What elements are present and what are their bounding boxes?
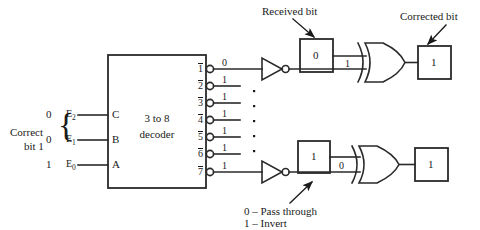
decoder-output-pin-7-text: 7 bbox=[198, 166, 203, 178]
decoder-output-bubble-2 bbox=[206, 82, 213, 89]
inverter-top-triangle bbox=[262, 58, 282, 80]
legend-line-pass-through: 0 – Pass through bbox=[244, 206, 317, 217]
decoder-output-value-2: 1 bbox=[222, 75, 227, 85]
decoder-title-line1: 3 to 8 bbox=[134, 113, 180, 124]
xor-top-body bbox=[365, 43, 405, 82]
legend-arrow bbox=[290, 182, 312, 203]
decoder-output-bubble-1 bbox=[206, 65, 213, 72]
xor-bottom-back-outer bbox=[352, 146, 357, 183]
decoder-output-value-6: 1 bbox=[222, 143, 227, 153]
decoder-output-value-7: 1 bbox=[222, 161, 227, 171]
inverter-bottom-triangle bbox=[262, 161, 282, 183]
decoder-pin-a: A bbox=[112, 159, 120, 170]
decoder-output-bubble-5 bbox=[206, 133, 213, 140]
correct-bit-label-line1: Correct bbox=[10, 127, 43, 138]
decoder-input-value-2: 1 bbox=[46, 159, 52, 170]
decoder-input-signal-e2: E2 bbox=[66, 109, 76, 122]
decoder-output-bubble-7 bbox=[206, 168, 213, 175]
decoder-output-pin-6: 6 bbox=[198, 148, 203, 160]
correct-bit-label-line2: bit 1 bbox=[24, 141, 44, 152]
received-bit-arrow bbox=[293, 19, 314, 37]
decoder-output-pin-2-text: 2 bbox=[198, 80, 203, 92]
decoder-output-value-4: 1 bbox=[222, 109, 227, 119]
decoder-output-pin-4: 4 bbox=[198, 114, 203, 126]
ellipsis-dots-vertical bbox=[253, 90, 255, 152]
diagram-canvas: Correct bit 1 { 0 0 1 E2 E1 E0 C B A 3 t… bbox=[0, 0, 480, 230]
decoder-title-line2: decoder bbox=[128, 129, 186, 140]
decoder-output-bubble-4 bbox=[206, 116, 213, 123]
decoder-output-value-1: 0 bbox=[222, 58, 227, 68]
signal-sub-e1: 1 bbox=[72, 138, 76, 147]
received-bit-value-top: 0 bbox=[313, 50, 319, 61]
decoder-output-bubble-6 bbox=[206, 150, 213, 157]
xor-top-back-outer bbox=[358, 43, 363, 82]
decoder-output-pin-1-text: 1 bbox=[198, 63, 203, 75]
decoder-pin-b: B bbox=[112, 134, 119, 145]
decoder-output-pin-5-text: 5 bbox=[198, 131, 203, 143]
decoder-output-pin-4-text: 4 bbox=[198, 114, 203, 126]
corrected-bit-arrow bbox=[428, 25, 446, 44]
decoder-output-value-3: 1 bbox=[222, 92, 227, 102]
decoder-output-pin-3: 3 bbox=[198, 97, 203, 109]
decoder-pin-c: C bbox=[112, 109, 119, 120]
legend-line-invert: 1 – Invert bbox=[244, 218, 287, 229]
decoder-output-pin-6-text: 6 bbox=[198, 148, 203, 160]
decoder-output-bubble-3 bbox=[206, 99, 213, 106]
corrected-bit-label: Corrected bit bbox=[400, 11, 458, 22]
signal-sub-e2: 2 bbox=[72, 113, 76, 122]
decoder-output-pin-5: 5 bbox=[198, 131, 203, 143]
decoder-output-value-5: 1 bbox=[222, 126, 227, 136]
received-bit-label: Received bit bbox=[262, 6, 317, 17]
decoder-input-value-0: 0 bbox=[46, 109, 52, 120]
decoder-output-pin-2: 2 bbox=[198, 80, 203, 92]
decoder-input-signal-e1: E1 bbox=[66, 134, 76, 147]
received-bit-value-bottom: 1 bbox=[311, 151, 317, 162]
decoder-output-pin-7: 7 bbox=[198, 166, 203, 178]
decoder-output-pin-1: 1 bbox=[198, 63, 203, 75]
corrected-bit-value-top: 1 bbox=[431, 57, 437, 68]
decoder-input-value-1: 0 bbox=[46, 134, 52, 145]
xor-input-value-top: 1 bbox=[345, 59, 350, 69]
xor-input-value-bottom: 0 bbox=[339, 161, 344, 171]
xor-bottom-body bbox=[359, 146, 399, 183]
decoder-input-signal-e0: E0 bbox=[66, 159, 76, 172]
corrected-bit-value-bottom: 1 bbox=[428, 159, 434, 170]
decoder-output-pin-3-text: 3 bbox=[198, 97, 203, 109]
signal-sub-e0: 0 bbox=[72, 163, 76, 172]
